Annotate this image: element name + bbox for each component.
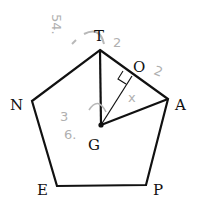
foot-label-O: O xyxy=(133,58,145,76)
vertex-label-T: T xyxy=(94,27,104,45)
vertex-label-E: E xyxy=(37,181,48,199)
pentagon-diagram: T A P E N G O 54. 2 2 x 3 6. xyxy=(0,0,204,203)
annotation-3: 3 xyxy=(60,109,68,124)
annotation-54: 54. xyxy=(49,14,64,35)
angle-arc-center xyxy=(89,103,106,112)
annotation-2-right: 2 xyxy=(152,63,165,80)
annotation-2-top: 2 xyxy=(113,35,121,50)
vertex-label-A: A xyxy=(174,96,186,114)
tick-mark xyxy=(72,40,76,44)
right-angle-marker xyxy=(118,71,126,84)
vertex-label-P: P xyxy=(153,181,163,199)
annotation-x: x xyxy=(128,90,136,105)
center-point-G xyxy=(98,122,103,127)
segment-TG xyxy=(100,50,101,125)
center-label-G: G xyxy=(88,136,100,154)
annotation-6: 6. xyxy=(64,127,76,142)
vertex-label-N: N xyxy=(10,96,23,114)
